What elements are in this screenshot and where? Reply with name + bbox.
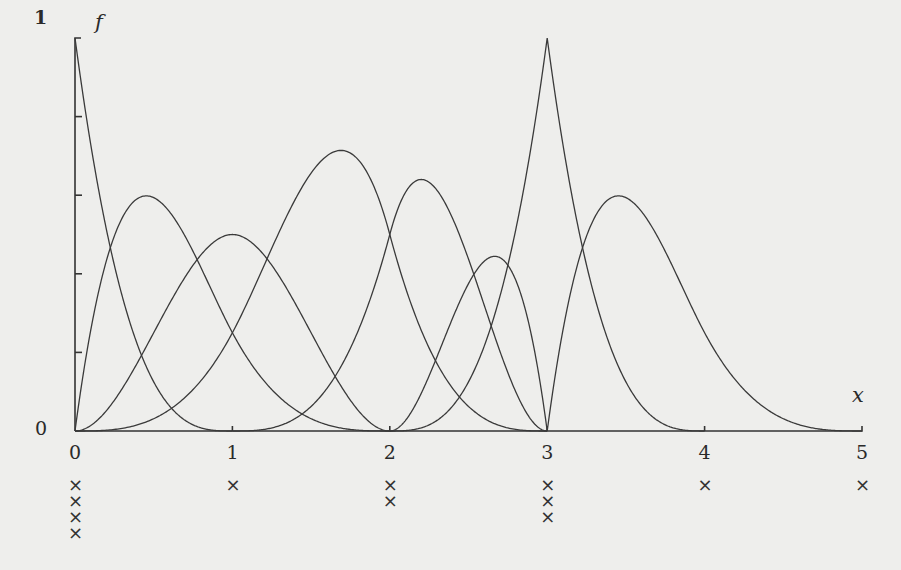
y-label-zero: 0 — [35, 419, 47, 438]
x-tick-label: 5 — [856, 443, 868, 462]
y-axis — [75, 38, 81, 431]
basis-curve-b6 — [390, 38, 705, 431]
b-spline-plot — [0, 0, 901, 570]
basis-curve-b0 — [75, 38, 232, 431]
basis-curve-b7 — [547, 196, 862, 431]
axes — [75, 38, 862, 431]
x-axis-name: x — [852, 385, 864, 406]
x-tick-label: 0 — [69, 443, 81, 462]
basis-curve-b3 — [75, 150, 547, 431]
knot-marker: × — [540, 508, 555, 526]
basis-curves — [75, 38, 862, 431]
y-label-one: 1 — [34, 8, 47, 27]
x-tick-label: 1 — [226, 443, 238, 462]
x-tick-label: 3 — [541, 443, 553, 462]
x-axis — [75, 426, 862, 431]
knot-marker: × — [698, 476, 713, 494]
knot-marker: × — [225, 476, 240, 494]
y-axis-name: f — [95, 12, 103, 33]
x-tick-label: 2 — [384, 443, 396, 462]
x-tick-label: 4 — [699, 443, 711, 462]
knot-marker: × — [855, 476, 870, 494]
basis-curve-b4 — [232, 179, 547, 431]
basis-curve-b1 — [75, 196, 390, 431]
basis-curve-b5 — [390, 256, 547, 431]
knot-marker: × — [383, 492, 398, 510]
knot-marker: × — [68, 524, 83, 542]
